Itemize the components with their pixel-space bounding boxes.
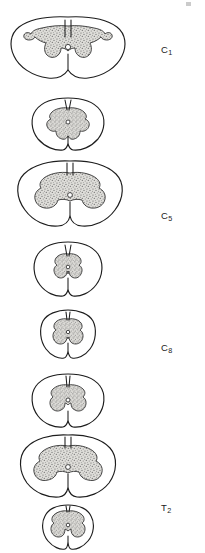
specimen-c1-drawing <box>8 14 128 86</box>
specimen-l1-drawing <box>30 372 106 430</box>
s1-central-canal <box>66 523 70 527</box>
level-label-t2: T2 <box>161 503 171 513</box>
t2-central-canal <box>66 265 70 269</box>
specimen-t2 <box>32 240 104 300</box>
level-label-c1: C1 <box>161 45 172 55</box>
spinal-cord-sections-figure: C1 C5 C8 <box>0 0 205 553</box>
specimen-l1 <box>30 372 106 430</box>
specimen-t7 <box>39 308 97 362</box>
l6-central-canal <box>66 465 71 470</box>
specimen-c5 <box>29 96 107 154</box>
crop-artifact-mark <box>186 2 191 6</box>
specimen-t2-drawing <box>32 240 104 300</box>
level-label-c5: C5 <box>161 211 172 221</box>
specimen-t7-drawing <box>39 308 97 362</box>
l1-central-canal <box>66 398 70 402</box>
c1-central-canal <box>65 44 70 49</box>
c8-central-canal <box>68 193 73 198</box>
specimen-l6-drawing <box>18 432 118 504</box>
specimen-c8-drawing <box>14 158 126 234</box>
specimen-c8 <box>14 158 126 234</box>
specimen-s1-drawing <box>41 503 95 551</box>
specimen-c1 <box>8 14 128 86</box>
specimen-l6 <box>18 432 118 504</box>
t7-central-canal <box>66 330 69 333</box>
specimen-c5-drawing <box>29 96 107 154</box>
specimen-s1 <box>41 503 95 551</box>
c5-central-canal <box>66 120 70 124</box>
level-label-c8: C8 <box>161 343 172 353</box>
